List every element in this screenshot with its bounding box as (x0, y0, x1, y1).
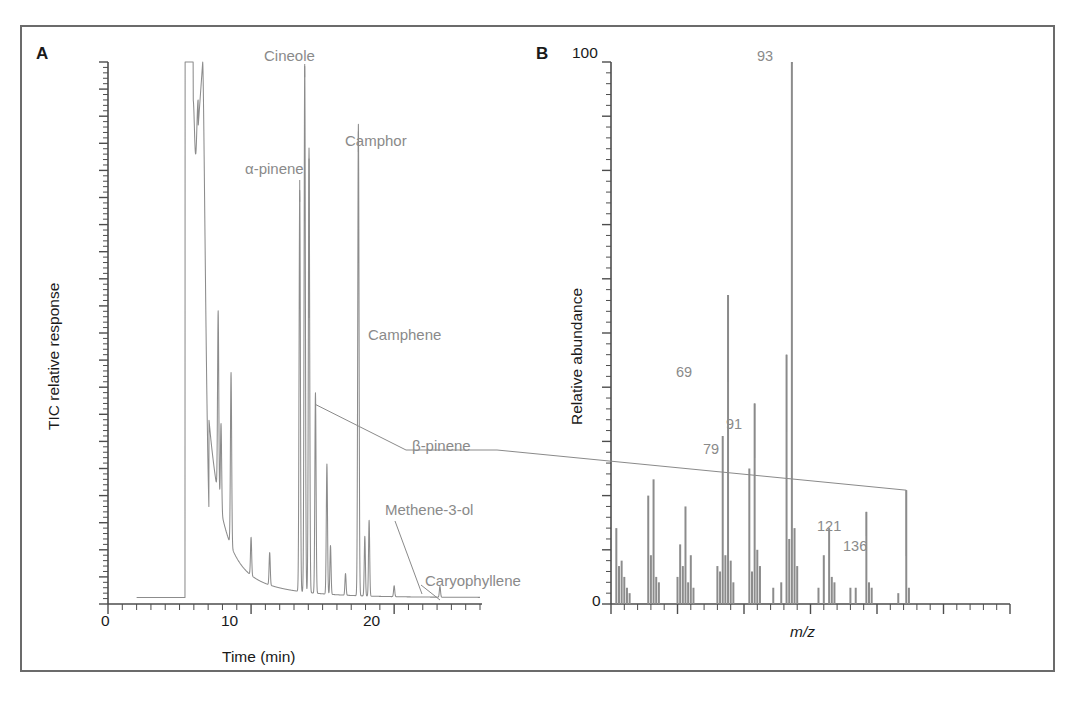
panel-a-chromatogram-trace (137, 62, 480, 598)
plot-graphics (0, 0, 1073, 703)
panel-a-axes (99, 62, 482, 614)
panel-b-mass-spectrum-bars (616, 62, 909, 604)
figure-container: A B TIC relative response Time (min) 0 1… (0, 0, 1073, 703)
panel-a-leader-lines (300, 64, 497, 600)
panel-b-axes (602, 62, 1010, 614)
panel-b-leader-lines (497, 62, 906, 556)
